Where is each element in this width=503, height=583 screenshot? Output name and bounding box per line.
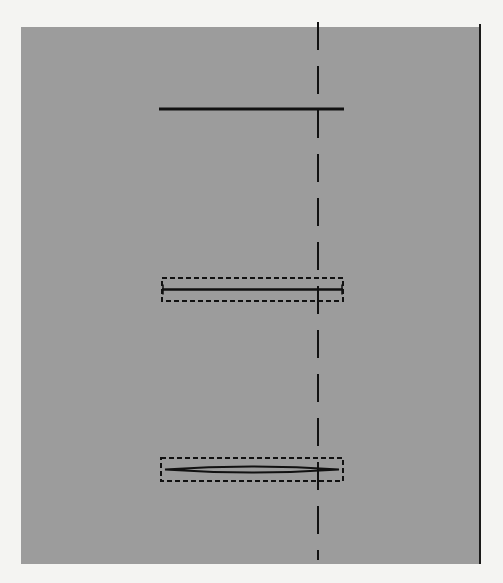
diagram-canvas — [0, 0, 503, 583]
